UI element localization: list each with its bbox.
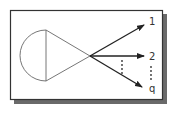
junction-diagram: 1 2 q bbox=[0, 0, 174, 114]
output-label-q: q bbox=[149, 83, 155, 94]
output-label-2: 2 bbox=[149, 51, 155, 62]
output-label-1: 1 bbox=[149, 16, 155, 27]
